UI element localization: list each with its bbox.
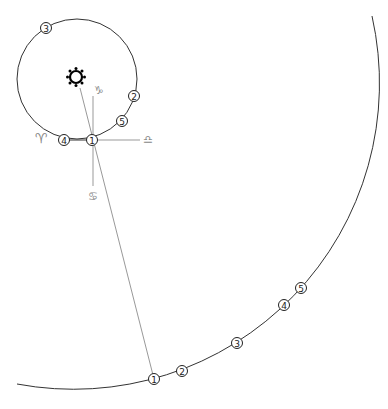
outer-marker-1: 1 [149,374,160,385]
svg-text:4: 4 [281,301,287,311]
outer-marker-3: 3 [232,338,243,349]
outer-marker-5: 5 [296,283,307,294]
capricorn-sign: ♑ [94,84,104,97]
orbit-diagram: ♑ ♋ ♎ ♈ 1 2 3 4 5 1 2 3 4 5 [0,0,388,409]
svg-text:1: 1 [89,136,95,146]
outer-marker-4: 4 [279,300,290,311]
libra-sign: ♎ [143,133,153,146]
svg-text:4: 4 [61,136,67,146]
inner-marker-5: 5 [117,116,128,127]
aries-sign: ♈ [35,130,48,146]
svg-text:5: 5 [298,284,304,294]
inner-marker-3: 3 [41,23,52,34]
svg-text:2: 2 [131,92,137,102]
svg-text:1: 1 [151,375,157,385]
inner-marker-2: 2 [129,91,140,102]
inner-marker-4: 4 [59,135,70,146]
svg-text:5: 5 [119,117,125,127]
sun-icon [66,67,86,87]
outer-marker-2: 2 [177,366,188,377]
svg-text:3: 3 [43,24,49,34]
inner-marker-1: 1 [87,135,98,146]
cancer-sign: ♋ [88,190,98,203]
svg-text:2: 2 [179,367,185,377]
svg-text:3: 3 [234,339,240,349]
